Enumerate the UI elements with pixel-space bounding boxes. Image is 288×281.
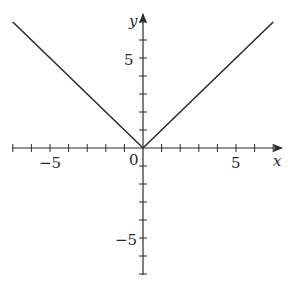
y-axis-label: y xyxy=(128,12,138,30)
y-tick-label-5: 5 xyxy=(124,51,134,69)
y-tick-label-neg5: −5 xyxy=(115,231,137,249)
x-axis-label: x xyxy=(273,152,282,170)
x-tick-label-5: 5 xyxy=(231,154,241,172)
x-tick-label-neg5: −5 xyxy=(39,154,61,172)
absolute-value-graph: y x 0 −5 5 5 −5 xyxy=(0,0,288,281)
origin-label: 0 xyxy=(129,151,139,169)
